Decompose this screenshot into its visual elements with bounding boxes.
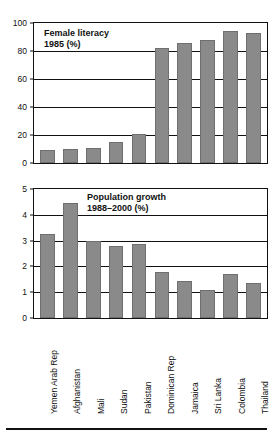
y-tick-mark xyxy=(30,240,33,241)
bar xyxy=(155,48,170,163)
chart-title-line1: Population growth xyxy=(87,192,166,203)
y-tick-label: 3 xyxy=(22,236,27,245)
chart-title-population-growth: Population growth 1988–2000 (%) xyxy=(87,192,166,214)
x-tick-label: Yemen Arab Rep xyxy=(50,350,59,414)
chart-title-line2: 1985 (%) xyxy=(44,39,109,50)
x-tick-label: Sri Lanka xyxy=(214,378,223,414)
bar xyxy=(177,43,192,163)
chart-title-line1: Female literacy xyxy=(44,28,109,39)
y-tick-mark xyxy=(30,107,33,108)
y-tick-mark xyxy=(30,292,33,293)
x-tick-label: Mali xyxy=(97,398,106,414)
y-tick-mark xyxy=(30,135,33,136)
bar xyxy=(246,33,261,163)
y-tick-mark xyxy=(30,318,33,319)
y-tick-mark xyxy=(30,51,33,52)
bar xyxy=(246,283,261,318)
footer-divider xyxy=(6,428,267,430)
bar xyxy=(155,272,170,318)
figure-panel: 020406080100 Female literacy 1985 (%) 01… xyxy=(0,0,273,438)
y-tick-label: 40 xyxy=(18,103,27,112)
x-tick-label: Pakistan xyxy=(144,381,153,414)
bar xyxy=(63,149,78,163)
bar xyxy=(200,290,215,318)
bar xyxy=(177,281,192,318)
bar xyxy=(132,134,147,163)
bar xyxy=(132,244,147,318)
y-axis-female-literacy: 020406080100 xyxy=(0,22,33,164)
bar xyxy=(40,150,55,163)
bar xyxy=(200,40,215,163)
x-tick-label: Colombia xyxy=(238,378,247,414)
y-tick-label: 20 xyxy=(18,131,27,140)
y-tick-mark xyxy=(30,23,33,24)
y-tick-label: 0 xyxy=(22,314,27,323)
bar xyxy=(109,246,124,318)
y-tick-mark xyxy=(30,214,33,215)
chart-title-line2: 1988–2000 (%) xyxy=(87,203,166,214)
y-tick-label: 2 xyxy=(22,262,27,271)
y-tick-label: 80 xyxy=(18,47,27,56)
x-tick-label: Afghanistan xyxy=(73,369,82,414)
y-tick-label: 100 xyxy=(13,19,27,28)
y-axis-population-growth: 012345 xyxy=(0,188,33,319)
bar xyxy=(86,148,101,163)
y-tick-label: 60 xyxy=(18,75,27,84)
bar xyxy=(223,274,238,318)
x-tick-label: Sudan xyxy=(120,389,129,414)
y-tick-mark xyxy=(30,163,33,164)
y-tick-label: 0 xyxy=(22,159,27,168)
bar xyxy=(63,203,78,318)
x-axis-category-labels: Yemen Arab RepAfghanistanMaliSudanPakist… xyxy=(0,322,273,417)
y-tick-label: 4 xyxy=(22,211,27,220)
bar xyxy=(40,234,55,318)
y-tick-mark xyxy=(30,189,33,190)
x-tick-label: Dominican Rep xyxy=(167,356,176,414)
x-tick-label: Thailand xyxy=(261,381,270,414)
x-tick-label: Jamaica xyxy=(191,382,200,414)
y-tick-label: 1 xyxy=(22,288,27,297)
bar xyxy=(109,142,124,163)
y-tick-label: 5 xyxy=(22,185,27,194)
bar xyxy=(223,31,238,163)
y-tick-mark xyxy=(30,79,33,80)
y-tick-mark xyxy=(30,266,33,267)
chart-title-female-literacy: Female literacy 1985 (%) xyxy=(44,28,109,50)
bar xyxy=(86,241,101,318)
